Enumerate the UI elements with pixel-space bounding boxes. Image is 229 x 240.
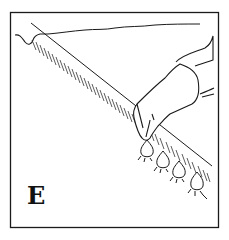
trench-hatching [32, 40, 210, 182]
bulb-4 [188, 172, 207, 199]
sleeve-cuff [176, 36, 213, 66]
hand-arm [134, 36, 214, 140]
soil-edge-squiggle [15, 34, 48, 44]
panel-label: E [27, 184, 45, 208]
bulb-1 [138, 140, 153, 162]
bulb-row [138, 140, 207, 199]
wrist-fold [200, 88, 214, 97]
bulb-2 [154, 151, 169, 173]
bulb-3 [170, 161, 185, 183]
horizon-line [48, 24, 200, 34]
hand-outline [134, 64, 199, 140]
